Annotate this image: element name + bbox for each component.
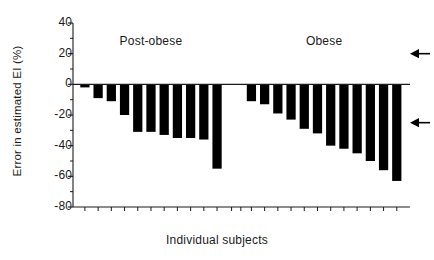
group-label-post-obese: Post-obese <box>120 34 183 48</box>
bar-post-obese-4 <box>120 84 129 115</box>
bar-obese-7 <box>326 84 335 145</box>
bar-post-obese-11 <box>212 84 221 168</box>
x-axis-title: Individual subjects <box>0 233 434 247</box>
chart-figure: Error in estimated EI (%) 40200-20-40-60… <box>0 0 434 260</box>
bar-post-obese-3 <box>107 84 116 101</box>
bar-obese-3 <box>273 84 282 113</box>
plot-area <box>0 0 434 260</box>
bar-obese-12 <box>392 84 401 181</box>
bar-post-obese-8 <box>173 84 182 138</box>
lower-reference-arrow <box>410 118 430 127</box>
bar-obese-4 <box>286 84 295 119</box>
bar-obese-9 <box>353 84 362 153</box>
bar-obese-10 <box>366 84 375 161</box>
bar-obese-11 <box>379 84 388 170</box>
bar-obese-6 <box>313 84 322 133</box>
bar-post-obese-7 <box>160 84 169 135</box>
upper-reference-arrow <box>410 49 430 58</box>
bar-obese-2 <box>260 84 269 104</box>
bar-post-obese-5 <box>133 84 142 132</box>
annotations-layer <box>410 49 430 127</box>
group-label-obese: Obese <box>306 34 342 48</box>
bar-post-obese-10 <box>199 84 208 139</box>
bar-obese-1 <box>247 84 256 101</box>
bars-layer <box>80 84 401 181</box>
bar-post-obese-9 <box>186 84 195 138</box>
bar-post-obese-2 <box>93 84 102 98</box>
bar-obese-8 <box>339 84 348 148</box>
bar-obese-5 <box>300 84 309 128</box>
bar-post-obese-6 <box>146 84 155 132</box>
